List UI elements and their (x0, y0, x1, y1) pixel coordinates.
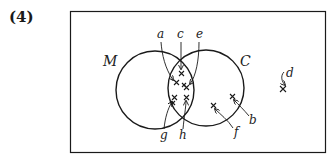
arrow-d (282, 72, 285, 85)
point-label-b: b (249, 113, 257, 127)
point-label-g: g (160, 128, 168, 142)
venn-diagram: M C a c e g h b f d (0, 0, 328, 156)
x-mark-b (230, 94, 235, 99)
point-label-e: e (196, 27, 203, 41)
x-mark-g (172, 95, 177, 100)
x-mark-f (211, 103, 216, 108)
point-marks (171, 71, 286, 108)
point-label-c: c (177, 27, 184, 41)
x-mark-1 (182, 83, 186, 87)
point-label-h: h (179, 128, 187, 142)
arrow-f (215, 109, 233, 128)
set-c-circle (168, 50, 244, 126)
point-label-f: f (233, 125, 241, 139)
x-mark-a (174, 80, 179, 85)
x-mark-h (184, 95, 189, 100)
x-mark-c (179, 71, 184, 76)
x-mark-d (280, 86, 286, 92)
set-m-label: M (102, 53, 118, 69)
set-c-label: C (240, 53, 251, 69)
point-label-d: d (286, 66, 294, 80)
point-label-a: a (157, 27, 164, 41)
